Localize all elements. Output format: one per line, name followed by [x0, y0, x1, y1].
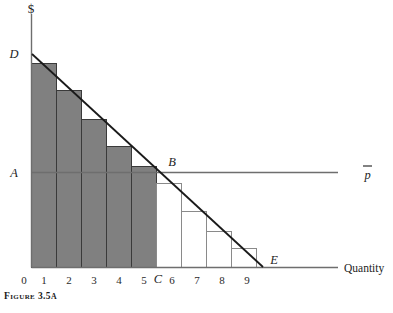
bar-5-shaded	[132, 167, 157, 268]
x-tick-6: 6	[169, 274, 175, 286]
x-tick-3: 3	[91, 274, 97, 286]
x-tick-5: 5	[141, 274, 147, 286]
bar-8-unshaded	[207, 232, 232, 268]
bar-7-unshaded	[182, 212, 207, 268]
x-tick-labels-group: 1 2 3 4 5 6 7 8 9	[41, 274, 250, 286]
economics-supply-demand-chart: $ D A B C E p Quantity 0 1 2 3 4 5 6 7 8…	[0, 0, 393, 313]
x-tick-8: 8	[219, 274, 225, 286]
y-axis-label: $	[28, 1, 35, 16]
figure-caption: Figure 3.5a	[4, 291, 57, 301]
bar-4-shaded	[107, 147, 132, 268]
label-A: A	[9, 166, 18, 180]
label-E: E	[269, 253, 278, 267]
price-line-label: p	[363, 168, 370, 182]
x-tick-4: 4	[116, 274, 122, 286]
x-tick-1: 1	[41, 274, 47, 286]
figure-caption-suffix: a	[51, 292, 57, 301]
bar-3-shaded	[82, 120, 107, 268]
x-tick-origin: 0	[21, 274, 27, 286]
label-B: B	[168, 155, 176, 169]
label-D: D	[8, 47, 18, 61]
figure-caption-prefix: Figure	[4, 291, 35, 301]
shaded-bars-group	[32, 64, 157, 268]
x-axis-label: Quantity	[344, 262, 384, 275]
figure-caption-number: 3.5	[38, 291, 51, 301]
label-C: C	[154, 272, 163, 286]
x-tick-9: 9	[244, 274, 250, 286]
figure-container: $ D A B C E p Quantity 0 1 2 3 4 5 6 7 8…	[0, 0, 393, 313]
price-line-label-group: p	[363, 166, 372, 182]
bar-2-shaded	[57, 91, 82, 268]
bar-6-unshaded	[157, 184, 182, 268]
bar-1-shaded	[32, 64, 57, 268]
unshaded-bars-group	[157, 184, 257, 268]
x-tick-7: 7	[194, 274, 200, 286]
x-tick-2: 2	[66, 274, 72, 286]
